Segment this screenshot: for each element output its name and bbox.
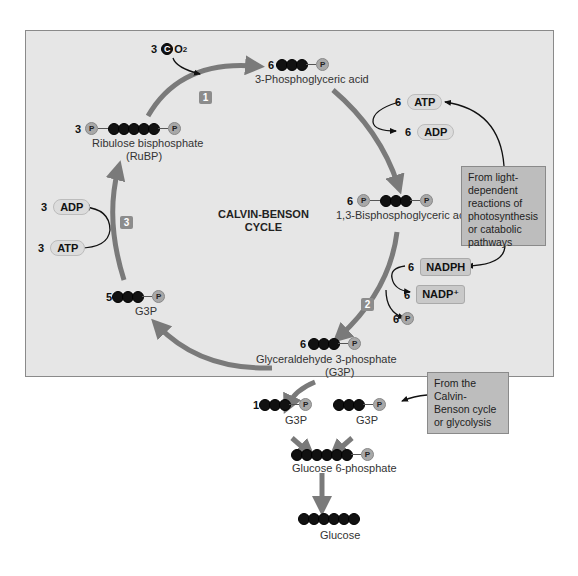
phosphate-icon: P xyxy=(348,337,361,350)
molecule-glucose6p: P xyxy=(291,448,374,461)
g3p-out1-label: G3P xyxy=(285,414,307,426)
g3p-cycle-name: Glyceraldehyde 3-phosphate xyxy=(256,353,396,365)
rubp-abbr: (RuBP) xyxy=(126,150,162,162)
adp3-pill: ADP xyxy=(53,199,90,215)
atp-count: 6 xyxy=(395,96,401,108)
adp3-count: 3 xyxy=(41,201,47,213)
molecule-glucose xyxy=(298,513,358,525)
molecule-g3p-cycle: 6 P xyxy=(300,337,361,350)
note-light-reactions: From light-dependent reactions of photos… xyxy=(461,166,546,246)
arrow-calvin-to-g3p xyxy=(402,395,427,401)
phosphate-icon: P xyxy=(373,398,386,411)
rubp-count: 3 xyxy=(75,123,81,135)
adp-count: 6 xyxy=(405,126,411,138)
arrow-bpg-to-g3p xyxy=(340,232,397,336)
released-phosphate: 6 P xyxy=(393,312,414,325)
atp-pill: ATP xyxy=(407,94,442,110)
atp-step1: 6 ATP xyxy=(395,94,442,110)
co2-subscript: 2 xyxy=(183,45,187,54)
bpg-label: 1,3-Bisphosphoglyceric acid xyxy=(336,209,473,221)
phosphate-icon: P xyxy=(316,58,329,71)
nadp-box: NADP⁺ xyxy=(416,285,465,304)
bond xyxy=(289,404,299,405)
bond xyxy=(98,128,108,129)
phosphate-icon: P xyxy=(299,398,312,411)
title-line-2: CYCLE xyxy=(218,221,309,234)
phosphate-icon: P xyxy=(401,312,414,325)
bond xyxy=(370,200,380,201)
atp3-pill: ATP xyxy=(50,240,85,256)
phosphate-icon: P xyxy=(420,194,433,207)
arrow-g3p-to-5g3p xyxy=(158,326,272,368)
bpg-count: 6 xyxy=(347,195,353,207)
bond xyxy=(363,404,373,405)
phosphate-icon: P xyxy=(361,448,374,461)
adp-pill: ADP xyxy=(417,124,454,140)
molecule-g3p-out1: 1 P xyxy=(253,398,312,411)
nadph-box: NADPH xyxy=(420,258,471,276)
g3p-cycle-label: Glyceraldehyde 3-phosphate xyxy=(276,353,396,365)
molecule-g3p-recycle: 5 P xyxy=(106,290,165,303)
pga-count: 6 xyxy=(268,59,274,71)
phosphate-icon: P xyxy=(168,122,181,135)
glucose6p-label: Glucose 6-phosphate xyxy=(292,462,397,474)
bond xyxy=(306,64,316,65)
atp-step3: 3 ATP xyxy=(38,240,85,256)
g3p-recycle-label: G3P xyxy=(135,305,157,317)
glucose-label: Glucose xyxy=(320,529,360,541)
phosphate-icon: P xyxy=(152,290,165,303)
carbon-atom-icon: C xyxy=(161,43,173,55)
adp-step1: 6 ADP xyxy=(405,124,454,140)
bond xyxy=(410,200,420,201)
pi-count: 6 xyxy=(393,313,399,325)
title-line-1: CALVIN-BENSON xyxy=(218,208,309,221)
phosphate-icon: P xyxy=(357,194,370,207)
bond xyxy=(142,296,152,297)
step-badge-3: 3 xyxy=(120,216,133,229)
arrows-layer xyxy=(0,0,578,576)
step-badge-2: 2 xyxy=(361,298,374,311)
co2-input: 3 C O2 xyxy=(151,43,187,55)
bond xyxy=(338,343,348,344)
rubp-label: Ribulose bisphosphate xyxy=(92,137,203,149)
cycle-title: CALVIN-BENSON CYCLE xyxy=(218,208,309,234)
molecule-g3p-out2: P xyxy=(333,398,386,411)
step-badge-1: 1 xyxy=(199,91,212,104)
pga-label: 3-Phosphoglyceric acid xyxy=(255,73,369,85)
adp-step3: 3 ADP xyxy=(41,199,90,215)
co2-oxygen: O xyxy=(174,43,183,55)
carbon-atom-icon xyxy=(348,513,360,525)
nadp-count: 6 xyxy=(404,289,410,301)
nadph: 6 NADPH xyxy=(408,258,471,276)
nadp: 6 NADP⁺ xyxy=(404,285,465,304)
bond xyxy=(158,128,168,129)
nadph-count: 6 xyxy=(408,261,414,273)
phosphate-icon: P xyxy=(85,122,98,135)
g3p-cycle-count: 6 xyxy=(300,338,306,350)
molecule-bpg: 6 P P xyxy=(347,194,433,207)
atp3-count: 3 xyxy=(38,242,44,254)
co2-count: 3 xyxy=(151,43,157,55)
arrow-pga-to-bpg xyxy=(333,90,398,185)
g3p-cycle-abbr: (G3P) xyxy=(325,366,354,378)
g3p-out2-label: G3P xyxy=(356,414,378,426)
molecule-pga: 6 P xyxy=(268,58,329,71)
molecule-rubp: 3 P P xyxy=(75,122,181,135)
bond xyxy=(351,454,361,455)
note-calvin-glycolysis: From the Calvin-Benson cycle or glycolys… xyxy=(427,372,509,434)
